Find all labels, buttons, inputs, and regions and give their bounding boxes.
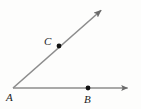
geometry-canvas: [0, 0, 141, 109]
point-b-marker: [86, 86, 91, 91]
point-c-marker: [57, 44, 62, 49]
point-a-label: A: [6, 92, 13, 103]
point-c-label: C: [44, 36, 51, 47]
ray-ac: [13, 10, 101, 88]
geometry-figure: A B C: [0, 0, 141, 109]
point-b-label: B: [84, 94, 91, 105]
